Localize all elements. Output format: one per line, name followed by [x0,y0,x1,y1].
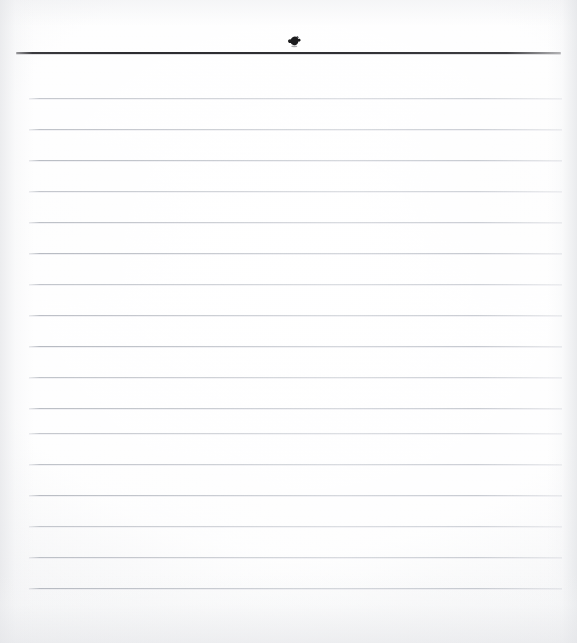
ruled-line [29,253,562,254]
paper-edge-shading-left [0,0,34,643]
scanned-page [0,0,577,643]
ruled-line [29,433,562,434]
header-rule [16,52,561,54]
ruled-line [29,557,562,558]
paper-edge-shading-right [547,0,577,643]
ruled-line [29,284,562,285]
paper-edge-shading-top [0,0,577,26]
ruled-line [29,588,562,589]
ruled-line [29,495,562,496]
ruled-line [29,526,562,527]
scan-vignette [0,0,577,643]
ruled-line [29,222,562,223]
paper-edge-shading-bottom [0,573,577,643]
ruled-line [29,129,562,130]
ink-smudge-mark [287,35,302,48]
ruled-line [29,191,562,192]
ruled-line [29,346,562,347]
ruled-line [29,377,562,378]
ruled-line [29,408,562,409]
ruled-line [29,464,562,465]
ruled-line [29,160,562,161]
ruled-line [29,315,562,316]
ruled-line [29,98,562,99]
